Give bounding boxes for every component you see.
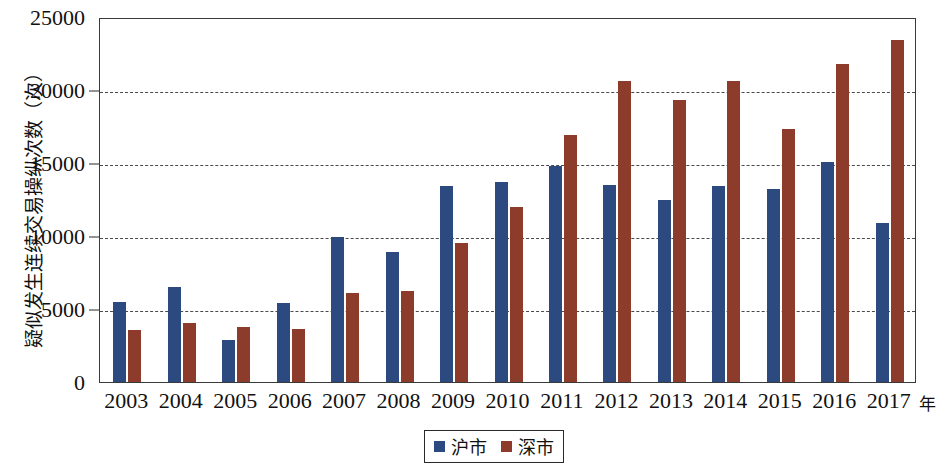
bar-group [495, 19, 523, 382]
bar-沪市-2012 [603, 185, 616, 382]
bar-chart: 疑似发生连续交易操纵次数（次） 050001000015000200002500… [0, 0, 941, 466]
bar-group [603, 19, 631, 382]
x-axis-labels: 2003200420052006200720082009201020112012… [99, 388, 916, 422]
bar-group [277, 19, 305, 382]
bar-沪市-2014 [712, 186, 725, 382]
legend-item: 深市 [501, 433, 554, 459]
bar-group [113, 19, 141, 382]
bar-深市-2014 [727, 81, 740, 382]
bar-group [876, 19, 904, 382]
bar-沪市-2017 [876, 223, 889, 382]
y-axis-ticks: 0500010000150002000025000 [0, 18, 99, 383]
legend-swatch-icon [434, 441, 445, 452]
bar-group [168, 19, 196, 382]
bar-group [222, 19, 250, 382]
x-axis-tick-label: 2004 [159, 388, 203, 414]
bar-沪市-2013 [658, 200, 671, 383]
x-axis-tick-label: 2016 [812, 388, 856, 414]
bar-深市-2006 [292, 329, 305, 382]
bar-group [386, 19, 414, 382]
legend-label: 深市 [518, 433, 554, 459]
x-axis-tick-label: 2009 [431, 388, 475, 414]
bar-沪市-2016 [821, 162, 834, 382]
bar-沪市-2007 [331, 237, 344, 382]
x-axis-tick-label: 2003 [104, 388, 148, 414]
y-axis-tick-mark [89, 164, 99, 165]
bar-深市-2003 [128, 330, 141, 382]
bar-group [549, 19, 577, 382]
bar-深市-2008 [401, 291, 414, 382]
bar-深市-2004 [183, 323, 196, 382]
bar-深市-2015 [782, 129, 795, 382]
bar-深市-2016 [836, 64, 849, 382]
x-axis-tick-label: 2013 [649, 388, 693, 414]
bar-沪市-2010 [495, 182, 508, 382]
bar-深市-2007 [346, 293, 359, 382]
bar-沪市-2008 [386, 252, 399, 382]
y-axis-tick-label: 10000 [30, 224, 85, 250]
chart-legend: 沪市深市 [424, 430, 564, 463]
x-axis-tick-label: 2014 [703, 388, 747, 414]
bar-group [821, 19, 849, 382]
y-axis-tick-label: 5000 [41, 297, 85, 323]
bar-group [331, 19, 359, 382]
bar-沪市-2009 [440, 186, 453, 382]
y-axis-tick-label: 0 [74, 370, 85, 396]
y-axis-tick-mark [89, 310, 99, 311]
bar-沪市-2015 [767, 189, 780, 382]
y-axis-tick-mark [89, 91, 99, 92]
y-axis-tick-label: 15000 [30, 151, 85, 177]
bars-layer [100, 19, 915, 382]
bar-沪市-2011 [549, 166, 562, 382]
x-axis-tick-label: 2012 [594, 388, 638, 414]
x-axis-tick-label: 2008 [377, 388, 421, 414]
x-axis-unit-label: 年 [919, 390, 936, 415]
bar-group [440, 19, 468, 382]
x-axis-tick-label: 2011 [540, 388, 583, 414]
bar-沪市-2003 [113, 302, 126, 382]
x-axis-tick-label: 2006 [268, 388, 312, 414]
y-axis-tick-label: 20000 [30, 78, 85, 104]
bar-沪市-2005 [222, 340, 235, 382]
legend-label: 沪市 [451, 433, 487, 459]
x-axis-tick-label: 2010 [486, 388, 530, 414]
legend-item: 沪市 [434, 433, 487, 459]
x-axis-tick-label: 2005 [213, 388, 257, 414]
y-axis-tick-mark [89, 237, 99, 238]
y-axis-tick-label: 25000 [30, 5, 85, 31]
bar-深市-2010 [510, 207, 523, 382]
bar-沪市-2004 [168, 287, 181, 382]
legend-swatch-icon [501, 441, 512, 452]
plot-area [99, 18, 916, 383]
bar-group [767, 19, 795, 382]
bar-沪市-2006 [277, 303, 290, 382]
x-axis-tick-label: 2007 [322, 388, 366, 414]
x-axis-tick-label: 2017 [867, 388, 911, 414]
bar-group [712, 19, 740, 382]
bar-深市-2011 [564, 135, 577, 382]
bar-深市-2009 [455, 243, 468, 382]
bar-深市-2005 [237, 327, 250, 382]
bar-group [658, 19, 686, 382]
bar-深市-2012 [618, 81, 631, 382]
x-axis-tick-label: 2015 [758, 388, 802, 414]
bar-深市-2013 [673, 100, 686, 382]
bar-深市-2017 [891, 40, 904, 382]
